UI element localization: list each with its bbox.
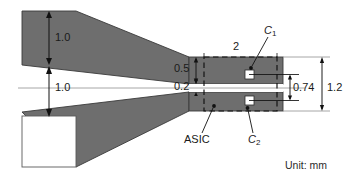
- label-electrode-spacing: 0.74: [293, 82, 314, 93]
- dimension-block-height: [320, 57, 324, 111]
- label-inlet-gap: 1.0: [55, 82, 70, 93]
- label-unit-note: Unit: mm: [285, 160, 327, 171]
- label-electrode-c2-subscript: 2: [256, 138, 260, 147]
- dimension-electrode-spacing: [288, 75, 292, 101]
- label-electrode-c2-text: C: [248, 133, 256, 145]
- label-inlet-height: 1.0: [55, 32, 70, 43]
- label-electrode-c1-text: C: [264, 24, 272, 36]
- technical-drawing-figure: 1.0 1.0 0.5 0.2 2 0.74 1.2 C1 C2 ASIC Un…: [0, 0, 352, 182]
- label-electrode-c1: C1: [264, 25, 276, 36]
- label-electrode-c2: C2: [248, 134, 260, 145]
- label-channel-height: 0.2: [174, 81, 189, 92]
- label-block-height: 1.2: [327, 82, 342, 93]
- right-block-upper: [189, 57, 283, 84]
- label-upper-wall: 0.5: [174, 63, 189, 74]
- right-block-lower: [189, 92, 283, 111]
- label-electrode-c1-subscript: 1: [272, 29, 276, 38]
- inlet-open-square: [22, 116, 76, 167]
- label-asic: ASIC: [184, 134, 210, 145]
- dimension-inlet-gap: [46, 66, 52, 117]
- label-asic-length: 2: [233, 41, 239, 52]
- dimension-asic-length: [204, 53, 277, 57]
